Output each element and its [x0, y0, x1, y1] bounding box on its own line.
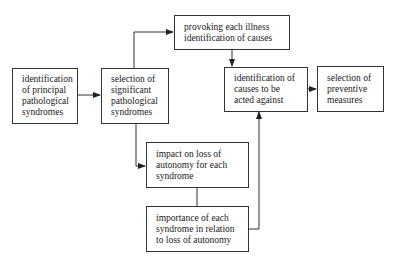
node-importance-syndrome-autonomy: importance of each syndrome in relation …	[146, 206, 249, 252]
flowchart-canvas: identification of principal pathological…	[0, 0, 396, 264]
edge-b-to-f	[136, 123, 145, 166]
node-label: importance of each syndrome in relation …	[156, 213, 235, 246]
node-provoking-illness-causes: provoking each illness identification of…	[174, 15, 290, 50]
node-label: identification of principal pathological…	[22, 74, 73, 118]
node-impact-loss-autonomy: impact on loss of autonomy for each synd…	[146, 142, 249, 188]
node-label: selection of preventive measures	[327, 73, 371, 106]
node-label: impact on loss of autonomy for each synd…	[156, 149, 227, 182]
node-label: identification of causes to be acted aga…	[234, 73, 295, 106]
node-identification-causes-acted-against: identification of causes to be acted aga…	[224, 67, 308, 112]
node-selection-preventive-measures: selection of preventive measures	[317, 66, 384, 112]
node-selection-significant-syndromes: selection of significant pathological sy…	[101, 68, 169, 124]
edge-g-to-d	[248, 112, 259, 229]
node-identification-principal-syndromes: identification of principal pathological…	[12, 68, 78, 124]
node-label: selection of significant pathological sy…	[111, 74, 158, 118]
node-label: provoking each illness identification of…	[184, 22, 272, 44]
edge-b-to-c	[134, 32, 173, 68]
